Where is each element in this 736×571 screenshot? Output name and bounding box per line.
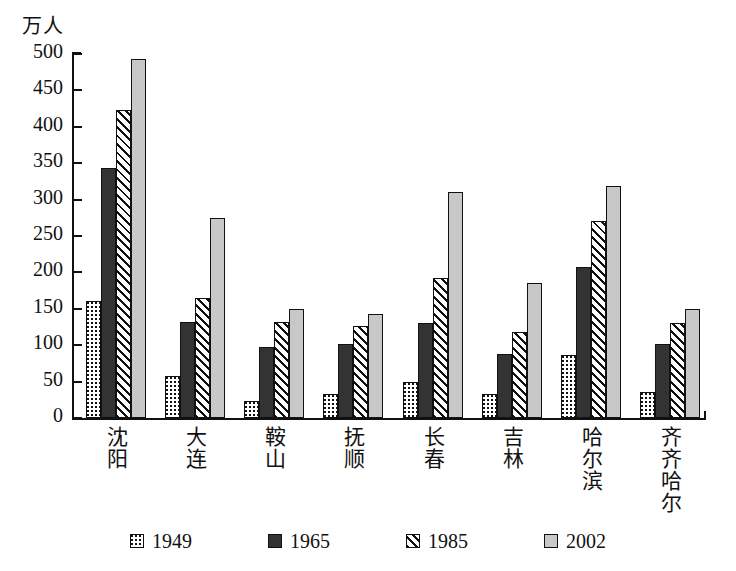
x-axis-label: 大连 [184, 426, 206, 470]
x-axis-label: 哈尔滨 [580, 426, 602, 492]
legend-swatch-icon [406, 534, 420, 548]
y-tick-label: 450 [3, 77, 63, 97]
y-tick-0: 0 [72, 417, 82, 419]
y-tick-label: 400 [3, 114, 63, 134]
legend-item[interactable]: 1949 [130, 531, 192, 551]
bar [418, 323, 433, 418]
y-tick-label: 250 [3, 223, 63, 243]
legend-item[interactable]: 1985 [406, 531, 468, 551]
y-tick-label: 350 [3, 150, 63, 170]
x-axis-line [72, 418, 706, 420]
y-tick-mark [74, 344, 82, 346]
bar [512, 332, 527, 418]
bar [244, 401, 259, 418]
y-tick-mark [74, 199, 82, 201]
y-tick-label: 100 [3, 332, 63, 352]
y-tick-mark [74, 235, 82, 237]
y-tick-200: 200 [72, 271, 82, 273]
bar-group [165, 52, 225, 418]
y-tick-500: 500 [72, 53, 82, 55]
bar [368, 314, 383, 418]
bar [274, 322, 289, 418]
legend-swatch-icon [130, 534, 144, 548]
bar [433, 278, 448, 418]
legend-swatch-icon [268, 534, 282, 548]
y-tick-label: 500 [3, 41, 63, 61]
y-axis-unit-caption: 万人 [22, 10, 64, 39]
y-tick-mark [74, 53, 82, 55]
bar [86, 301, 101, 418]
legend-label: 1985 [428, 531, 468, 551]
bar-group [244, 52, 304, 418]
y-tick-label: 300 [3, 187, 63, 207]
bar [670, 323, 685, 418]
y-tick-350: 350 [72, 162, 82, 164]
bar [685, 309, 700, 418]
bar [180, 322, 195, 418]
y-tick-250: 250 [72, 235, 82, 237]
y-tick-300: 300 [72, 199, 82, 201]
x-axis-label: 齐齐哈尔 [659, 426, 681, 514]
y-tick-mark [74, 308, 82, 310]
y-tick-label: 200 [3, 259, 63, 279]
bar [116, 110, 131, 418]
legend-item[interactable]: 1965 [268, 531, 330, 551]
y-tick-400: 400 [72, 126, 82, 128]
y-tick-mark [74, 417, 82, 419]
x-axis-label: 鞍山 [263, 426, 285, 470]
y-tick-mark [74, 271, 82, 273]
legend-item[interactable]: 2002 [544, 531, 606, 551]
legend-label: 1949 [152, 531, 192, 551]
chart-legend: 1949196519852002 [0, 524, 736, 558]
bar [448, 192, 463, 419]
bar [131, 59, 146, 418]
bar [655, 344, 670, 418]
bar [353, 326, 368, 418]
bar [497, 354, 512, 418]
bar [259, 347, 274, 418]
bar [101, 168, 116, 418]
y-tick-label: 0 [3, 405, 63, 425]
x-axis-label: 沈阳 [105, 426, 127, 470]
y-tick-mark [74, 126, 82, 128]
bar [606, 186, 621, 418]
bar-group [561, 52, 621, 418]
population-bar-chart: 万人 500450400350300250200150100500 沈阳大连鞍山… [0, 0, 736, 571]
legend-label: 1965 [290, 531, 330, 551]
y-tick-mark [74, 162, 82, 164]
bar-group [403, 52, 463, 418]
bar [561, 355, 576, 418]
y-tick-label: 50 [3, 369, 63, 389]
legend-label: 2002 [566, 531, 606, 551]
y-tick-mark [74, 89, 82, 91]
bar [482, 394, 497, 418]
y-tick-label: 150 [3, 296, 63, 316]
bar [289, 309, 304, 418]
bar [640, 392, 655, 418]
bar [195, 298, 210, 418]
legend-swatch-icon [544, 534, 558, 548]
plot-area: 500450400350300250200150100500 [72, 52, 706, 420]
bar [591, 221, 606, 418]
y-tick-50: 50 [72, 381, 82, 383]
bar [338, 344, 353, 418]
x-axis-right-cap [704, 411, 706, 420]
x-axis-label: 吉林 [501, 426, 523, 470]
bar [210, 218, 225, 418]
bar-group [86, 52, 146, 418]
x-axis-label: 抚顺 [342, 426, 364, 470]
bar [576, 267, 591, 418]
y-tick-450: 450 [72, 89, 82, 91]
y-tick-150: 150 [72, 308, 82, 310]
bar-group [640, 52, 700, 418]
bar [527, 283, 542, 418]
bar-group [323, 52, 383, 418]
bar [323, 394, 338, 418]
bar [403, 382, 418, 418]
bar [165, 376, 180, 418]
y-tick-mark [74, 381, 82, 383]
bar-group [482, 52, 542, 418]
y-tick-100: 100 [72, 344, 82, 346]
x-axis-label: 长春 [422, 426, 444, 470]
